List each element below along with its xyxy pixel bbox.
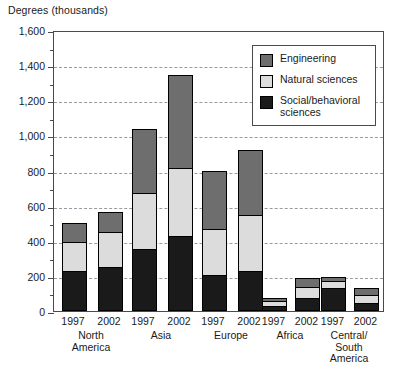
bar-segment [262,306,287,311]
bar-segment [132,249,157,311]
bar-segment [295,298,320,311]
bar-segment [98,232,123,268]
bar-segment [238,271,263,311]
bar-asia-1997 [132,129,157,311]
bar-asia-2002 [168,75,193,311]
bar-africa-1997 [262,298,287,311]
legend-label-social-behavioral-sciences: Social/behavioral sciences [280,95,369,118]
bar-segment [321,288,346,311]
gridline [54,137,383,138]
bar-segment [168,168,193,237]
y-axis-label: 1,200 [19,95,45,107]
legend-item-engineering: Engineering [260,53,369,67]
stacked-bar-chart: Degrees (thousands) 02004006008001,0001,… [0,0,396,370]
y-tick-minor [50,260,54,261]
y-axis-label: 1,400 [19,60,45,72]
y-tick-major [48,243,54,244]
y-tick-minor [50,190,54,191]
bar-segment [202,275,227,311]
legend-label-engineering: Engineering [280,53,336,65]
y-tick-major [48,137,54,138]
legend-item-natural-sciences: Natural sciences [260,74,369,88]
bar-segment [62,242,87,272]
bar-europe-2002 [238,150,263,311]
y-tick-major [48,32,54,33]
bar-segment [168,75,193,169]
x-axis-group-label-line: America [306,353,392,365]
legend-label-natural-sciences: Natural sciences [280,74,358,86]
bar-segment [238,150,263,216]
y-axis-label: 600 [27,201,45,213]
chart-axis-title: Degrees (thousands) [8,4,108,16]
y-tick-major [48,278,54,279]
bar-segment [98,267,123,311]
y-tick-minor [50,155,54,156]
bar-north-america-2002 [98,212,123,311]
bar-segment [132,129,157,195]
x-axis-year-label: 1997 [193,315,233,327]
legend-swatch-engineering [260,54,273,67]
y-axis-label: 1,600 [19,25,45,37]
bar-central-south-america-1997 [321,277,346,311]
legend-item-social-behavioral-sciences: Social/behavioral sciences [260,95,369,118]
y-tick-major [48,102,54,103]
bar-europe-1997 [202,171,227,311]
bar-segment [62,223,87,242]
y-tick-major [48,208,54,209]
y-tick-minor [50,295,54,296]
bar-north-america-1997 [62,223,87,311]
bar-segment [98,212,123,233]
bar-segment [202,171,227,230]
y-axis-label: 1,000 [19,130,45,142]
y-axis-label: 800 [27,166,45,178]
x-axis-group-label-line: America [48,342,134,354]
x-axis-year-label: 2002 [346,315,386,327]
y-axis-label: 400 [27,236,45,248]
bar-segment [168,236,193,311]
bar-africa-2002 [295,278,320,311]
bar-segment [354,303,379,311]
bar-segment [132,193,157,249]
y-axis-label: 0 [39,306,45,318]
y-tick-minor [50,85,54,86]
y-tick-minor [50,120,54,121]
y-tick-minor [50,225,54,226]
y-tick-major [48,173,54,174]
y-axis-label: 200 [27,271,45,283]
y-tick-major [48,67,54,68]
bar-segment [238,215,263,272]
y-tick-minor [50,50,54,51]
chart-legend: Engineering Natural sciences Social/beha… [252,45,376,126]
legend-swatch-social-behavioral-sciences [260,96,273,109]
x-axis-group-label: Central/SouthAmerica [306,330,392,365]
x-axis-year-label: 1997 [53,315,93,327]
bar-central-south-america-2002 [354,288,379,311]
bar-segment [202,229,227,276]
x-axis-group-label-line: Central/ [306,330,392,342]
legend-swatch-natural-sciences [260,75,273,88]
bar-segment [62,271,87,311]
x-axis-year-label: 1997 [123,315,163,327]
y-tick-major [48,313,54,314]
